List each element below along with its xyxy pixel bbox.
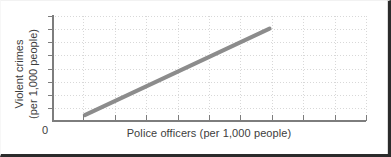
plot-area <box>52 16 366 121</box>
x-axis-tick <box>178 115 179 121</box>
y-axis-tick <box>48 82 54 83</box>
gridline-vertical <box>209 16 210 121</box>
x-axis-tick <box>240 115 241 121</box>
y-axis-tick <box>48 108 54 109</box>
x-axis-tick <box>209 115 210 121</box>
x-axis-tick <box>146 115 147 121</box>
gridline-vertical <box>83 16 84 121</box>
gridline-vertical <box>146 16 147 121</box>
y-axis-tick <box>48 69 54 70</box>
x-axis-label: Police officers (per 1,000 people) <box>52 126 366 140</box>
x-axis-tick <box>272 115 273 121</box>
x-axis-tick <box>303 115 304 121</box>
y-axis-label-line2: (per 1,000 people) <box>26 18 40 130</box>
gridline-vertical <box>272 16 273 121</box>
gridline-vertical <box>303 16 304 121</box>
line-chart: 0 Police officers (per 1,000 people) Vio… <box>0 0 391 157</box>
x-axis-tick <box>52 115 53 121</box>
gridline-vertical <box>115 16 116 121</box>
origin-label: 0 <box>42 124 48 137</box>
x-axis-tick <box>83 115 84 121</box>
y-axis-label: Violent crimes (per 1,000 people) <box>12 18 40 130</box>
x-axis-tick <box>115 115 116 121</box>
y-axis-tick <box>48 95 54 96</box>
y-axis-tick <box>48 29 54 30</box>
y-axis-tick <box>48 16 54 17</box>
gridline-vertical <box>240 16 241 121</box>
y-axis-tick <box>48 42 54 43</box>
y-axis-label-line1: Violent crimes <box>12 18 26 130</box>
figure-screenshot: 0 Police officers (per 1,000 people) Vio… <box>0 0 391 157</box>
x-axis-tick <box>335 115 336 121</box>
x-axis-tick <box>366 115 367 121</box>
gridline-vertical <box>335 16 336 121</box>
gridline-vertical <box>366 16 367 121</box>
y-axis-tick <box>48 55 54 56</box>
